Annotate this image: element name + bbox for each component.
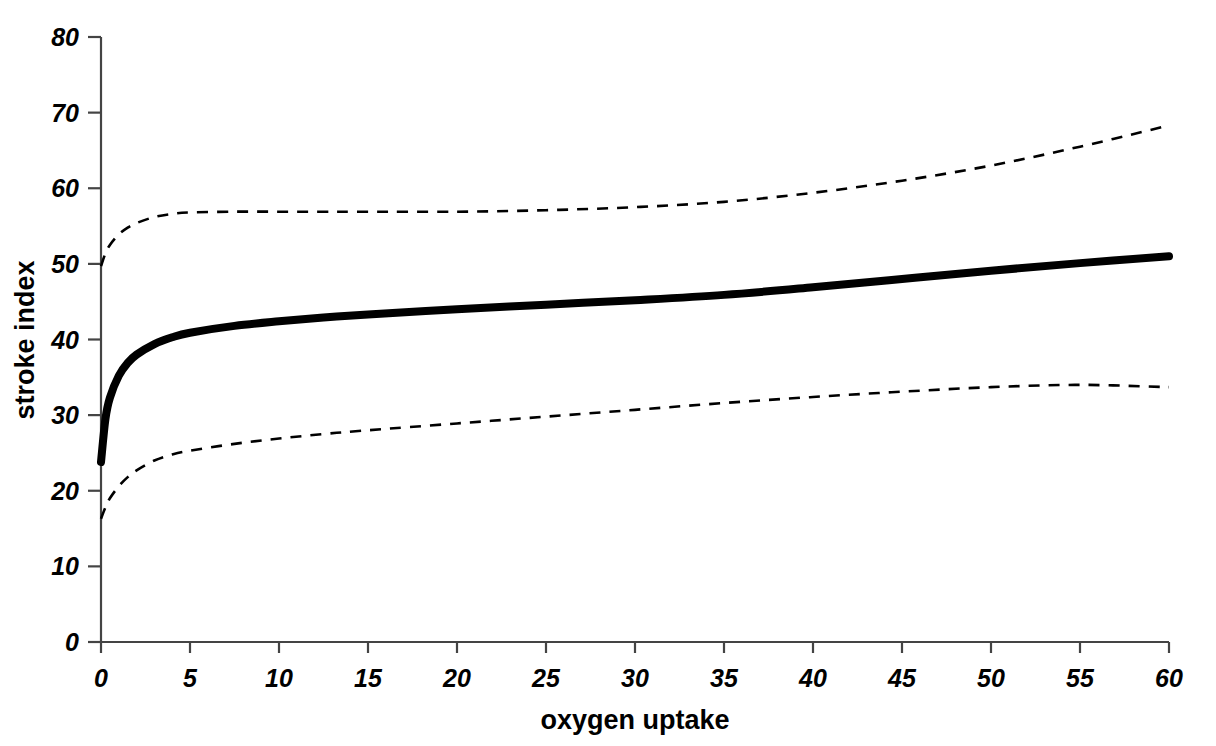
y-tick-label: 50 (51, 250, 79, 278)
y-tick-labels: 01020304050607080 (50, 23, 79, 656)
x-axis-title: oxygen uptake (540, 705, 729, 735)
x-tick-label: 5 (183, 664, 198, 692)
chart-canvas: 01020304050607080 0510152025303540455055… (0, 0, 1216, 746)
y-tick-marks (88, 37, 101, 642)
x-tick-label: 25 (531, 664, 561, 692)
x-tick-label: 20 (442, 664, 471, 692)
x-tick-label: 45 (887, 664, 917, 692)
x-tick-labels: 051015202530354045505560 (94, 664, 1183, 692)
x-tick-label: 60 (1155, 664, 1183, 692)
x-tick-label: 55 (1066, 664, 1095, 692)
y-tick-label: 80 (51, 23, 79, 51)
x-tick-label: 30 (621, 664, 649, 692)
y-tick-label: 40 (50, 326, 79, 354)
x-tick-label: 10 (265, 664, 293, 692)
upper-confidence-line (101, 125, 1169, 266)
y-tick-label: 0 (65, 628, 79, 656)
fitted-curve-line (101, 256, 1169, 462)
chart-page: 01020304050607080 0510152025303540455055… (0, 0, 1216, 746)
series-group (101, 125, 1169, 518)
lower-confidence-line (101, 385, 1169, 519)
x-tick-label: 40 (798, 664, 827, 692)
x-tick-label: 15 (354, 664, 383, 692)
y-tick-label: 70 (51, 99, 79, 127)
y-tick-label: 10 (51, 552, 79, 580)
x-tick-marks (101, 642, 1169, 653)
y-tick-label: 20 (50, 477, 79, 505)
x-tick-label: 35 (710, 664, 739, 692)
x-tick-label: 50 (977, 664, 1005, 692)
y-tick-label: 30 (51, 401, 79, 429)
x-axis-group: 051015202530354045505560 (94, 642, 1183, 692)
y-axis-title: stroke index (10, 260, 40, 419)
y-axis-group: 01020304050607080 (50, 23, 101, 656)
y-tick-label: 60 (51, 174, 79, 202)
x-tick-label: 0 (94, 664, 108, 692)
